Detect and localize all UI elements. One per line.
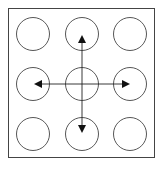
frame: [9, 9, 155, 158]
circle-r1c3: [114, 18, 147, 51]
grid-diagram: [0, 0, 161, 169]
circle-r1c1: [17, 18, 50, 51]
arrows: [36, 37, 128, 131]
circle-r3c3: [114, 118, 147, 151]
circle-r3c1: [17, 118, 50, 151]
